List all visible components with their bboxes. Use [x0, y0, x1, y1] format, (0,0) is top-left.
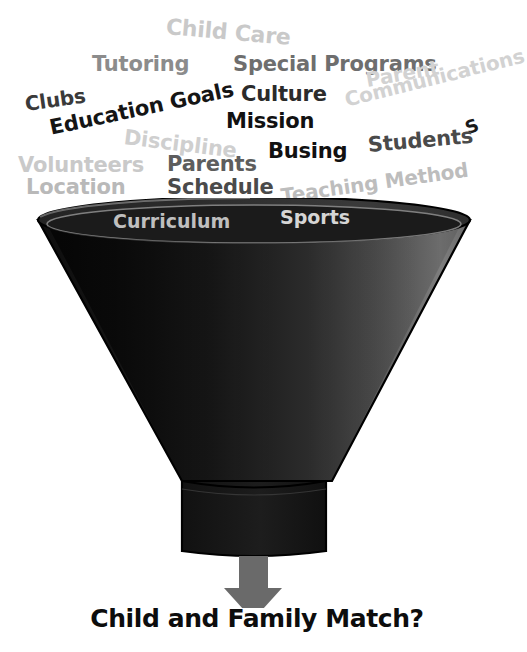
cloud-word: Tutoring [92, 54, 189, 75]
funnel-rim-word: Curriculum [113, 212, 230, 231]
cloud-word: Location [26, 177, 125, 198]
word-cloud: Child CareTutoringSpecial ProgramsClubsE… [0, 0, 514, 218]
funnel-mouth [47, 205, 461, 243]
cloud-word: Students [367, 126, 474, 156]
down-arrow-icon [224, 556, 282, 608]
cloud-word: Child Care [165, 16, 292, 49]
caption-text: Child and Family Match? [0, 604, 514, 633]
funnel-rim-word: Sports [280, 208, 350, 227]
cloud-word: Parents [167, 154, 257, 175]
funnel-graphic: CurriculumSports [0, 198, 514, 608]
cloud-word: Culture [241, 84, 327, 105]
cloud-word: Busing [268, 141, 347, 162]
cloud-word: Schedule [167, 177, 274, 198]
cloud-word: Mission [226, 111, 314, 132]
cloud-word: Volunteers [18, 155, 144, 176]
funnel-svg [0, 198, 514, 608]
